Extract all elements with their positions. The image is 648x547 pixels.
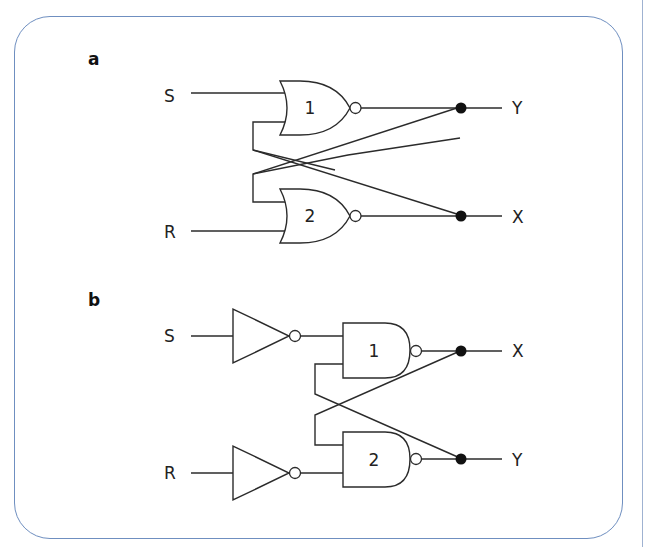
panel-b-gate-1-inverter-bubble <box>411 346 422 357</box>
panel-a-input-s-label: S <box>164 86 175 106</box>
panel-b-inverter-r-bubble <box>290 468 301 479</box>
panel-a-cross-wire-y <box>253 107 460 174</box>
panel-b-junction-x <box>456 346 467 357</box>
panel-b-gate-2-label: 2 <box>369 450 380 470</box>
panel-b-input-s-label: S <box>164 326 175 346</box>
panel-a-gate-2-inverter-bubble <box>350 211 361 222</box>
panel-a-gate-1-inverter-bubble <box>350 103 361 114</box>
panel-a-gate-2-label: 2 <box>305 206 316 226</box>
panel-b-junction-y <box>456 454 467 465</box>
panel-a-nor-gate-1: 1 <box>280 81 350 135</box>
panel-b-gate-1-label: 1 <box>369 341 380 361</box>
panel-b-output-y-label: Y <box>511 450 523 470</box>
panel-b-input-r-label: R <box>164 463 176 483</box>
panel-b-inverter-s <box>233 309 289 363</box>
panel-a-label: a <box>88 49 99 69</box>
panel-b-label: b <box>88 290 100 310</box>
panel-a-junction-x <box>456 211 467 222</box>
panel-a-cross-wire-x <box>253 150 460 215</box>
panel-b-output-x-label: X <box>512 341 524 361</box>
panel-a-output-x-label: X <box>512 207 524 227</box>
panel-a-junction-y <box>456 103 467 114</box>
panel-a-input-r-label: R <box>164 222 176 242</box>
panel-b: b S R 1 2 <box>88 290 524 500</box>
panel-b-inverter-s-bubble <box>290 331 301 342</box>
panel-a-nor-gate-2: 2 <box>280 189 350 243</box>
panel-b-gate-2-inverter-bubble <box>411 454 422 465</box>
panel-b-nand-gate-1: 1 <box>343 323 410 378</box>
panel-b-inverter-r <box>233 446 289 500</box>
panel-a-output-y-label: Y <box>511 98 523 118</box>
latch-diagram: a S R 1 2 Y X <box>0 0 648 547</box>
panel-b-nand-gate-2: 2 <box>343 432 410 487</box>
panel-a-gate-1-label: 1 <box>305 98 316 118</box>
panel-a: a S R 1 2 Y X <box>88 49 524 243</box>
